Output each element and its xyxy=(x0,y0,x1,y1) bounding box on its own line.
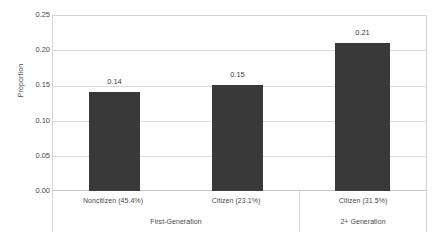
y-axis-ticks: 0.25 0.20 0.15 0.10 0.05 0.00 xyxy=(20,0,50,243)
bar-value-label: 0.15 xyxy=(212,70,263,79)
bar-value-label: 0.21 xyxy=(335,28,390,37)
bar-noncitizen-first-generation[interactable] xyxy=(89,92,140,191)
x-category-label-noncitizen-first-generation: Noncitizen (45.4%) xyxy=(58,197,168,204)
x-group-label-first-generation: First-Generation xyxy=(53,218,299,225)
right-axis-extension-line xyxy=(426,191,427,232)
x-category-label-citizen-first-generation: Citizen (23.1%) xyxy=(181,197,291,204)
y-tick-label: 0.25 xyxy=(24,11,50,19)
bar-chart: Proportion 0.25 0.20 0.15 0.10 0.05 0.00… xyxy=(0,0,434,243)
x-category-label-citizen-2plus-generation: Citizen (31.5%) xyxy=(300,197,426,204)
x-group-label-2plus-generation: 2+ Generation xyxy=(300,218,426,225)
bar-citizen-first-generation[interactable] xyxy=(212,85,263,191)
y-tick-label: 0.00 xyxy=(24,187,50,195)
bar-citizen-2plus-generation[interactable] xyxy=(335,43,390,191)
y-tick-label: 0.05 xyxy=(24,152,50,160)
y-tick-label: 0.10 xyxy=(24,117,50,125)
y-axis-extension-line xyxy=(52,191,53,232)
y-tick-label: 0.20 xyxy=(24,46,50,54)
bar-value-label: 0.14 xyxy=(89,77,140,86)
y-tick-label: 0.15 xyxy=(24,81,50,89)
bars-layer: 0.14 0.15 0.21 xyxy=(52,15,427,191)
